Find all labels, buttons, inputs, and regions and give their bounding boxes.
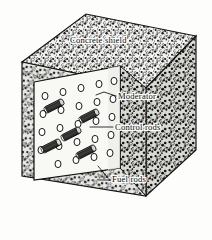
fuel-rod [73,156,79,163]
fuel-rod [94,98,100,105]
fuel-rod [91,153,97,160]
figure-canvas: Concrete shieldConcrete shieldModeratorM… [0,0,212,240]
fuel-rod [39,128,45,135]
fuel-rod [60,88,66,95]
fuel-rod [108,131,114,138]
label-moderator: Moderator [118,91,156,101]
label-control-rods: Control rods [115,122,161,132]
fuel-rod [42,92,48,99]
fuel-rod [96,80,102,87]
label-concrete-shield: Concrete shield [70,35,127,45]
label-fuel-rods: Fuel rods [112,174,146,184]
fuel-rod [107,149,113,156]
fuel-rod [111,77,117,84]
fuel-rod [78,84,84,91]
fuel-rod [110,95,116,102]
fuel-rod [93,117,99,124]
fuel-rod [57,124,63,131]
fuel-rod [74,138,80,145]
fuel-rod [109,113,115,120]
fuel-rod [76,102,82,109]
reactor-cutaway-illustration: Concrete shieldConcrete shieldModeratorM… [0,0,212,240]
fuel-rod [55,160,61,167]
fuel-rod [92,135,98,142]
